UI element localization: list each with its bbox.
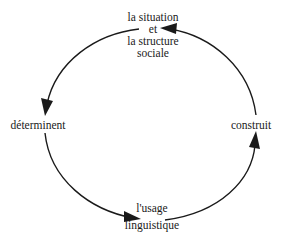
node-situation-structure-sociale: la situation et la structure sociale xyxy=(108,11,198,59)
node-top-line-3: la structure xyxy=(108,35,198,47)
node-determinent: déterminent xyxy=(3,119,73,131)
node-top-line-1: la situation xyxy=(108,11,198,23)
node-usage-linguistique: l'usage linguistique xyxy=(112,201,192,232)
node-left-line-1: déterminent xyxy=(3,119,73,131)
node-bottom-line-1: l'usage xyxy=(112,201,192,215)
node-right-line-1: construit xyxy=(220,119,282,131)
node-top-line-2: et xyxy=(108,23,198,35)
arrowhead-left-icon xyxy=(41,98,53,116)
node-construit: construit xyxy=(220,119,282,131)
cycle-diagram: la situation et la structure sociale dét… xyxy=(0,0,285,248)
node-top-line-4: sociale xyxy=(108,47,198,59)
node-bottom-line-2: linguistique xyxy=(112,218,192,232)
arrowhead-right-icon xyxy=(249,131,260,149)
